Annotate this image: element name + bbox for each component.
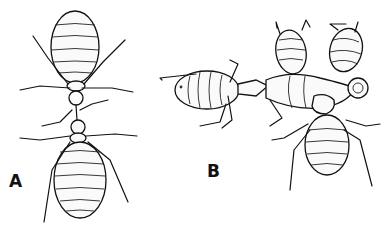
nymph-bottom — [272, 95, 380, 190]
panel-label-a: A — [9, 173, 22, 190]
ant-a-upper — [20, 11, 133, 126]
nymph-top-left — [272, 20, 310, 76]
illustration-drawing — [0, 0, 387, 229]
nymph-top-right — [325, 22, 367, 75]
ant-a-lower — [20, 120, 137, 222]
ant-illustration: A B — [0, 0, 387, 229]
panel-label-b: B — [207, 163, 220, 180]
